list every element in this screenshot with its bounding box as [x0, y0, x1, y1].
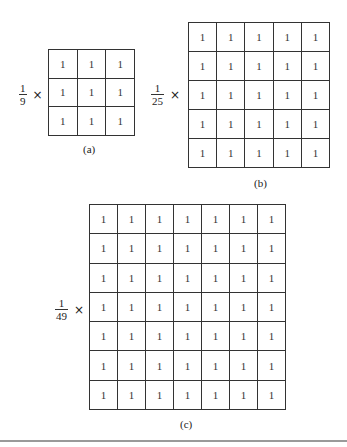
grid-cell: 1 [77, 78, 106, 107]
grid-cell: 1 [258, 380, 286, 409]
grid-row: 11111 [189, 139, 330, 168]
grid-cell: 1 [106, 78, 135, 107]
grid-cell: 1 [202, 292, 230, 321]
grid-row: 1111111 [90, 322, 286, 351]
grid-cell: 1 [245, 139, 273, 168]
caption-c: (c) [180, 418, 192, 430]
grid-cell: 1 [189, 23, 217, 52]
grid-row: 111 [49, 107, 135, 136]
grid-cell: 1 [258, 322, 286, 351]
caption-a: (a) [83, 143, 95, 155]
grid-row: 1111111 [90, 234, 286, 263]
grid-cell: 1 [146, 380, 174, 409]
grid-cell: 1 [230, 263, 258, 292]
grid-cell: 1 [202, 380, 230, 409]
grid-cell: 1 [118, 322, 146, 351]
grid-cell: 1 [245, 81, 273, 110]
factor-b: 1 25 × [151, 82, 180, 107]
factor-a: 1 9 × [19, 82, 43, 107]
grid-row: 11111 [189, 81, 330, 110]
grid-cell: 1 [106, 107, 135, 136]
grid-cell: 1 [174, 292, 202, 321]
grid-cell: 1 [146, 351, 174, 380]
grid-cell: 1 [258, 351, 286, 380]
grid-cell: 1 [245, 23, 273, 52]
grid-cell: 1 [258, 234, 286, 263]
grid-row: 11111 [189, 52, 330, 81]
grid-cell: 1 [90, 322, 118, 351]
grid-cell: 1 [49, 78, 78, 107]
grid-cell: 1 [230, 322, 258, 351]
grid-cell: 1 [273, 139, 301, 168]
grid-cell: 1 [202, 351, 230, 380]
grid-cell: 1 [217, 81, 245, 110]
grid-cell: 1 [273, 81, 301, 110]
grid-cell: 1 [90, 292, 118, 321]
grid-cell: 1 [258, 205, 286, 234]
grid-cell: 1 [49, 50, 78, 79]
grid-cell: 1 [118, 263, 146, 292]
grid-cell: 1 [90, 263, 118, 292]
grid-cell: 1 [146, 234, 174, 263]
grid-cell: 1 [258, 263, 286, 292]
grid-cell: 1 [77, 50, 106, 79]
grid-cell: 1 [189, 110, 217, 139]
grid-cell: 1 [230, 234, 258, 263]
grid-cell: 1 [118, 351, 146, 380]
grid-row: 11111 [189, 110, 330, 139]
grid-cell: 1 [202, 322, 230, 351]
grid-cell: 1 [90, 351, 118, 380]
grid-cell: 1 [174, 351, 202, 380]
grid-cell: 1 [146, 205, 174, 234]
grid-cell: 1 [77, 107, 106, 136]
denominator: 25 [151, 95, 164, 107]
grid-cell: 1 [217, 110, 245, 139]
grid-cell: 1 [189, 52, 217, 81]
grid-cell: 1 [118, 380, 146, 409]
grid-cell: 1 [146, 322, 174, 351]
grid-row: 1111111 [90, 205, 286, 234]
grid-cell: 1 [174, 263, 202, 292]
grid-cell: 1 [245, 52, 273, 81]
grid-cell: 1 [118, 205, 146, 234]
grid-cell: 1 [189, 139, 217, 168]
grid-cell: 1 [202, 234, 230, 263]
grid-cell: 1 [146, 263, 174, 292]
grid-cell: 1 [118, 292, 146, 321]
grid-cell: 1 [146, 292, 174, 321]
grid-cell: 1 [106, 50, 135, 79]
grid-row: 1111111 [90, 380, 286, 409]
multiply-sign: × [74, 303, 84, 317]
numerator: 1 [19, 82, 27, 94]
grid-cell: 1 [230, 380, 258, 409]
kernel-grid-7x7: 1111111111111111111111111111111111111111… [89, 204, 286, 410]
page-divider [0, 440, 347, 442]
grid-cell: 1 [90, 234, 118, 263]
grid-cell: 1 [174, 380, 202, 409]
grid-cell: 1 [174, 234, 202, 263]
grid-cell: 1 [301, 23, 329, 52]
grid-cell: 1 [174, 205, 202, 234]
grid-cell: 1 [301, 139, 329, 168]
grid-row: 111 [49, 78, 135, 107]
grid-cell: 1 [301, 110, 329, 139]
fraction: 1 49 [55, 297, 68, 322]
denominator: 49 [55, 310, 68, 322]
grid-cell: 1 [174, 322, 202, 351]
factor-c: 1 49 × [55, 297, 84, 322]
grid-cell: 1 [202, 263, 230, 292]
grid-cell: 1 [217, 52, 245, 81]
multiply-sign: × [33, 88, 43, 102]
grid-cell: 1 [245, 110, 273, 139]
kernel-grid-3x3: 111111111 [48, 49, 135, 136]
grid-cell: 1 [217, 139, 245, 168]
fraction: 1 25 [151, 82, 164, 107]
grid-cell: 1 [273, 52, 301, 81]
grid-cell: 1 [49, 107, 78, 136]
numerator: 1 [154, 82, 162, 94]
grid-cell: 1 [90, 380, 118, 409]
grid-row: 111 [49, 50, 135, 79]
caption-b: (b) [254, 177, 267, 189]
denominator: 9 [19, 95, 27, 107]
grid-cell: 1 [230, 351, 258, 380]
